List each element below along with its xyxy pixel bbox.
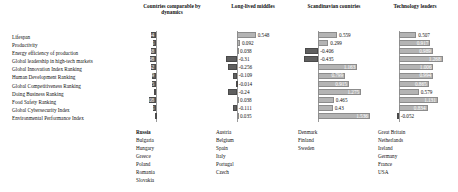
panel-2: Long-lived middles0.5480.0920.038-0.31-0… (214, 0, 296, 192)
bar-value: 1.536 (351, 112, 368, 120)
panel-header: Scandinavian countries (296, 3, 372, 9)
bar-value: 0.579 (421, 88, 433, 96)
panel-plot: 0.5070.9170.9891.2681.0060.9940.8650.579… (378, 31, 454, 122)
bar-row: -0.043 (136, 112, 210, 120)
bar-row: 0.548 (216, 31, 292, 39)
bar (399, 32, 417, 38)
indicator-label: Global leadership in high-tech markets (12, 57, 130, 65)
country-item: Denmark (298, 128, 374, 136)
indicator-label: Productivity (12, 41, 130, 49)
indicator-label: Global Innovation Index Ranking (12, 65, 130, 73)
country-item: Great Britain (378, 128, 456, 136)
bar-row: 0.834 (378, 104, 454, 112)
bar-value: -0.24 (239, 88, 250, 96)
indicator-label: Global Cybersecurity Index (12, 106, 130, 114)
country-item: Sweden (298, 144, 374, 152)
bar-value: -0.406 (320, 47, 333, 55)
country-item: Italy (216, 152, 294, 160)
bar-value: -0.142 (137, 63, 154, 71)
bar-row: -0.144 (136, 31, 210, 39)
bar-value: -0.144 (137, 31, 154, 39)
bar-row: -0.014 (216, 80, 292, 88)
bar-value: 1.163 (338, 63, 355, 71)
bar (305, 48, 319, 54)
bar-row: 0.092 (216, 39, 292, 47)
bar-row: 0.038 (216, 47, 292, 55)
panel-4: Technology leaders0.5070.9170.9891.2681.… (376, 0, 458, 192)
panel-3: Scandinavian countries0.5590.299-0.406-0… (296, 0, 376, 192)
bar-row: 0.038 (216, 96, 292, 104)
bar (304, 56, 319, 62)
panel-1: Countries comparable by dynamics-0.144-0… (134, 0, 214, 192)
bar-value: 0.465 (336, 96, 348, 104)
bar-row: 1.268 (378, 55, 454, 63)
bar-value: -0.071 (137, 88, 154, 96)
bar-value: 0.834 (409, 104, 426, 112)
country-item: Finland (298, 136, 374, 144)
country-item: France (378, 160, 456, 168)
bar-row: -0.109 (216, 71, 292, 79)
country-item: Slovakia (136, 176, 212, 184)
bar (226, 56, 237, 62)
country-item: Bulgaria (136, 136, 212, 144)
bar-row: -0.31 (216, 55, 292, 63)
bar-value: -0.168 (137, 47, 154, 55)
bar-row: -0.095 (136, 39, 210, 47)
bar-row: -0.256 (216, 63, 292, 71)
panel-group: Countries comparable by dynamics-0.144-0… (134, 0, 458, 192)
bar (399, 89, 419, 95)
bar-row: -0.052 (378, 112, 454, 120)
bar-value: 0.989 (414, 47, 431, 55)
bar-value: 0.038 (240, 96, 252, 104)
bar-row: -0.24 (216, 88, 292, 96)
bar (228, 89, 236, 95)
bar-value: 0.994 (414, 71, 431, 79)
panel-header: Long-lived middles (214, 3, 292, 9)
bar-row: -0.168 (136, 47, 210, 55)
bar (318, 32, 337, 38)
country-item: Belgium (216, 136, 294, 144)
bar-value: -0.198 (137, 55, 154, 63)
country-item: Austria (216, 128, 294, 136)
bar (233, 73, 237, 79)
country-item: USA (378, 168, 456, 176)
panel-header: Countries comparable by dynamics (134, 3, 210, 16)
country-list: DenmarkFinlandSweden (298, 128, 374, 152)
bar-row: 0.865 (378, 80, 454, 88)
bar (237, 113, 239, 119)
bar-row: 0.579 (378, 88, 454, 96)
bar-value: -0.085 (137, 104, 154, 112)
bar (318, 105, 332, 111)
country-list: RussiaBulgariaHungaryGreecePolandRomania… (136, 128, 212, 184)
bar-row: -0.142 (136, 63, 210, 71)
bar-row: -0.435 (298, 55, 372, 63)
chart-sheet: LifespanProductivityEnergy efficiency of… (0, 0, 458, 192)
country-item: Germany (378, 152, 456, 160)
panel-header: Technology leaders (376, 3, 454, 9)
bar (237, 40, 240, 46)
country-item: Ireland (378, 144, 456, 152)
country-list: AustriaBelgiumSpainItalyPortugalCzech (216, 128, 294, 176)
country-item: Greece (136, 152, 212, 160)
bar-row: 0.035 (216, 112, 292, 120)
bar-value: -0.135 (137, 80, 154, 88)
bar-row: -0.406 (298, 47, 372, 55)
indicator-label: Lifespan (12, 33, 130, 41)
bar-row: 1.006 (378, 63, 454, 71)
bar-value: 0.43 (335, 104, 344, 112)
bar-value: -0.111 (239, 104, 252, 112)
bar-value: -0.052 (401, 112, 414, 120)
bar-row: 0.915 (298, 80, 372, 88)
bar (155, 113, 157, 119)
bar-value: -0.095 (137, 39, 154, 47)
bar-row: 1.163 (298, 63, 372, 71)
indicator-label: Food Safety Ranking (12, 98, 130, 106)
bar-value: 0.559 (339, 31, 351, 39)
country-item: Hungary (136, 144, 212, 152)
bar-value: -0.256 (239, 63, 252, 71)
indicator-label: Energy efficiency of production (12, 49, 130, 57)
bar (318, 97, 334, 103)
bar-value: 0.917 (411, 39, 428, 47)
bar-value: 0.507 (418, 31, 430, 39)
bar-value: 1.006 (414, 63, 431, 71)
